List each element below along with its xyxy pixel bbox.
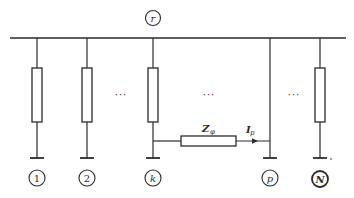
ellipsis-1: ··· <box>115 89 128 100</box>
network-diagram: r 1 2 ··· k ··· Z φ I p <box>0 0 354 198</box>
shunt-branch-N: N <box>312 38 332 187</box>
node-label-N: N <box>314 174 325 185</box>
branch-p: p <box>262 38 278 186</box>
impedance-subscript: φ <box>210 128 215 136</box>
node-label-1: 1 <box>34 173 40 184</box>
shunt-branch-2: 2 <box>79 38 95 186</box>
node-label-2: 2 <box>84 173 90 184</box>
series-impedance-box <box>181 136 236 146</box>
stray-mark <box>330 158 332 160</box>
shunt-impedance-box <box>148 68 158 122</box>
series-branch-k-p: Z φ I p <box>153 123 270 146</box>
bus-node-r: r <box>146 11 161 26</box>
impedance-label: Z <box>201 123 210 134</box>
shunt-impedance-box <box>315 68 325 122</box>
ellipsis-2: ··· <box>203 89 216 100</box>
shunt-branch-k: k <box>145 38 161 186</box>
ellipsis-3: ··· <box>288 89 301 100</box>
current-subscript: p <box>250 129 255 137</box>
node-label-p: p <box>267 173 274 184</box>
shunt-impedance-box <box>82 68 92 122</box>
current-arrow-icon <box>252 138 258 144</box>
shunt-branch-1: 1 <box>29 38 45 186</box>
shunt-impedance-box <box>32 68 42 122</box>
node-label-k: k <box>150 173 156 184</box>
